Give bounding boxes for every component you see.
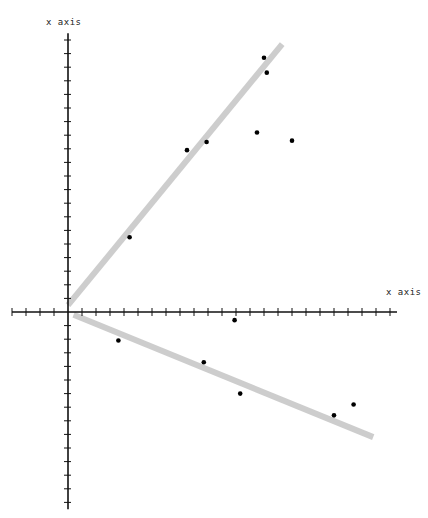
- data-point: [127, 235, 132, 240]
- data-point: [262, 55, 267, 60]
- data-point: [255, 130, 260, 135]
- scatter-plot: [0, 0, 428, 518]
- axes: [12, 33, 397, 509]
- data-points: [116, 55, 356, 417]
- data-point: [290, 138, 295, 143]
- data-point: [332, 413, 337, 418]
- data-point: [204, 140, 209, 145]
- lower-fit-line: [74, 315, 374, 437]
- data-point: [185, 148, 190, 153]
- y-axis-title: x axis: [46, 17, 82, 27]
- data-point: [202, 360, 207, 365]
- x-axis-title: x axis: [386, 287, 422, 297]
- data-point: [265, 70, 270, 75]
- data-point: [232, 318, 237, 323]
- data-point: [116, 338, 121, 343]
- upper-fit-line: [68, 44, 282, 305]
- fit-lines: [68, 44, 373, 437]
- data-point: [351, 402, 356, 407]
- data-point: [238, 391, 243, 396]
